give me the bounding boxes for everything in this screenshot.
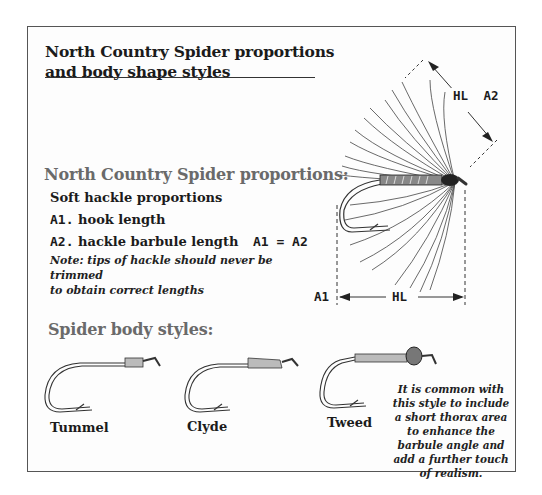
bottom-arrow-head (482, 132, 493, 142)
clyde-body (248, 358, 282, 368)
body-styles-heading: Spider body styles: (48, 320, 213, 339)
tweed-caption: It is common with this style to include … (388, 382, 514, 480)
style-label-tummel: Tummel (50, 420, 109, 435)
style-label-clyde: Clyde (187, 419, 227, 434)
tweed-eye (422, 355, 436, 364)
dim-label-a1: A1 (312, 289, 331, 304)
dim-hl-top: HL (453, 88, 468, 103)
style-label-tweed: Tweed (327, 415, 372, 430)
tummel-eye (143, 358, 160, 366)
tummel-body (125, 358, 143, 367)
tweed-thorax (406, 347, 422, 365)
dim-label-hl-top: HL A2 (451, 88, 501, 103)
tweed-body (355, 354, 407, 362)
tummel-hook (45, 363, 125, 412)
dim-a2: A2 (484, 88, 499, 103)
top-arrow-head (428, 61, 439, 71)
clyde-hook (185, 364, 248, 412)
tweed-hook (320, 357, 366, 408)
fly-head (441, 174, 459, 186)
top-dimension-line (405, 60, 497, 167)
hackle-fibers (340, 80, 455, 292)
bottom-dimension-line (337, 190, 465, 305)
clyde-eye (282, 359, 298, 366)
hook-eye (458, 178, 466, 184)
dim-label-hl-bottom: HL (390, 289, 409, 304)
right-arrow-head (453, 293, 464, 301)
left-arrow-head (339, 293, 350, 301)
